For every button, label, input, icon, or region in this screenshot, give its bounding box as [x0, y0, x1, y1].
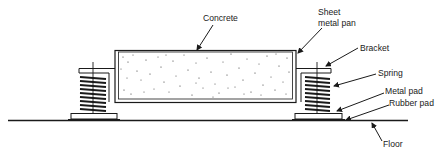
rubber-pad-label: Rubber pad [389, 98, 434, 108]
metal-pad-label: Metal pad [385, 86, 423, 96]
metal-pad-leader [337, 93, 384, 111]
bracket-leader [326, 48, 358, 66]
sheet-metal-pan-label-line1: Sheet [318, 7, 340, 17]
concrete-leader [197, 25, 213, 50]
spring-label: Spring [378, 68, 403, 78]
floor-leader [372, 123, 382, 141]
sheet-metal-pan-label-line2: metal pan [318, 18, 356, 28]
rubber-pad-right [292, 119, 345, 121]
isolation-base-diagram: Concrete Sheet metal pan Bracket Spring … [0, 0, 442, 157]
floor-label: Floor [383, 139, 403, 149]
rubber-pad-leader [346, 105, 389, 120]
bracket-label: Bracket [360, 43, 389, 53]
concrete-label: Concrete [203, 13, 238, 23]
metal-pad-right [295, 114, 342, 120]
metal-pad-left [71, 114, 117, 120]
sheet-metal-pan [115, 51, 296, 103]
spring-leader [334, 74, 376, 86]
diagram-drawing [0, 0, 442, 157]
pan-leader [298, 28, 322, 53]
rubber-pad-left [68, 119, 120, 121]
spring-right [305, 62, 330, 113]
spring-left [80, 62, 106, 113]
